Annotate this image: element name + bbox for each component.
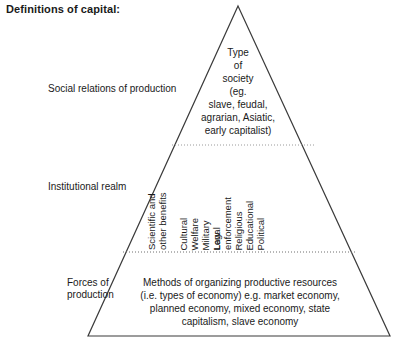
- tier-content-forces-of-production: Methods of organizing productive resourc…: [112, 276, 368, 328]
- institutional-item-religious: Religious: [234, 211, 245, 250]
- institutional-item-scientific: Scientific and other benefits: [147, 192, 168, 250]
- tier-label-forces-of-production: Forces of production: [67, 277, 114, 301]
- tier-label-institutional-realm: Institutional realm: [48, 181, 126, 193]
- diagram-canvas: Definitions of capital: Social relations…: [0, 0, 401, 345]
- tier-content-social-relations: Type of society (eg. slave, feudal, agra…: [176, 46, 300, 137]
- institutional-item-military: Military: [201, 220, 212, 250]
- institutional-item-political: Political: [256, 217, 267, 250]
- institutional-item-law-enforcement: Law enforcement: [212, 197, 233, 250]
- institutional-items-band: Scientific and other benefits Cultural W…: [168, 148, 286, 250]
- institutional-item-educational: Educational: [245, 200, 256, 250]
- institutional-item-welfare: Welfare: [190, 217, 201, 250]
- tier-label-social-relations: Social relations of production: [48, 83, 176, 95]
- institutional-item-cultural: Cultural: [179, 217, 190, 250]
